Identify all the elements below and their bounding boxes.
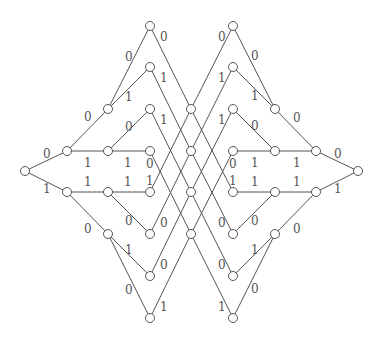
node-d0 <box>146 22 155 31</box>
edge-label: 1 <box>84 156 92 170</box>
node-f6 <box>229 272 238 281</box>
edge-label: 0 <box>218 258 226 272</box>
node-d1 <box>146 63 155 72</box>
edge-e2-f6 <box>191 192 233 276</box>
network-diagram: 0101100101101001101001011010010101101001… <box>0 0 382 342</box>
node-f4 <box>229 188 238 197</box>
edge-label: 1 <box>251 89 259 103</box>
node-e3 <box>187 230 196 239</box>
edge-e3-f7 <box>191 234 233 318</box>
edge-label: 0 <box>160 30 168 44</box>
edge-label: 1 <box>293 175 301 189</box>
node-e0 <box>187 105 196 114</box>
node-d5 <box>146 230 155 239</box>
edge-e1-f1 <box>191 67 233 151</box>
edge-label: 1 <box>218 71 226 85</box>
node-c3 <box>104 230 113 239</box>
node-g2 <box>271 188 280 197</box>
edge-label: 0 <box>125 120 133 134</box>
edge-label: 0 <box>293 111 301 125</box>
edge-label: 0 <box>251 214 259 228</box>
nodes-layer <box>21 22 363 323</box>
node-f2 <box>229 105 238 114</box>
node-c1 <box>104 147 113 156</box>
edge-label: 0 <box>125 283 133 297</box>
edges-layer <box>25 26 358 318</box>
edge-label: 0 <box>251 49 259 63</box>
edge-label: 0 <box>218 30 226 44</box>
node-f0 <box>229 22 238 31</box>
node-a0 <box>21 167 30 176</box>
edge-label: 1 <box>251 243 259 257</box>
edge-label: 0 <box>251 119 259 133</box>
edge-d6-e2 <box>150 192 191 276</box>
edge-label: 1 <box>124 156 132 170</box>
edge-label: 1 <box>160 300 168 314</box>
edge-label: 1 <box>124 175 132 189</box>
node-e2 <box>187 188 196 197</box>
node-f3 <box>229 147 238 156</box>
edge-d0-e0 <box>150 26 191 109</box>
edge-label: 0 <box>293 222 301 236</box>
edge-label: 0 <box>160 216 168 230</box>
edge-label: 1 <box>160 71 168 85</box>
node-f7 <box>229 314 238 323</box>
edge-label: 1 <box>218 300 226 314</box>
node-d4 <box>146 188 155 197</box>
edge-label: 1 <box>84 175 92 189</box>
node-d2 <box>146 105 155 114</box>
node-f1 <box>229 63 238 72</box>
edge-label: 1 <box>251 175 259 189</box>
edge-label: 0 <box>125 50 133 64</box>
node-c2 <box>104 188 113 197</box>
edge-e0-f0 <box>191 26 233 109</box>
edge-label: 1 <box>160 113 168 127</box>
edge-label: 1 <box>125 243 133 257</box>
node-d6 <box>146 272 155 281</box>
edge-label: 1 <box>125 90 133 104</box>
edge-label: 0 <box>125 214 133 228</box>
edge-label: 1 <box>334 182 342 196</box>
edge-label: 0 <box>84 222 92 236</box>
edge-d1-e1 <box>150 67 191 151</box>
edge-label: 1 <box>251 156 259 170</box>
node-h1 <box>312 188 321 197</box>
edge-label: 0 <box>218 216 226 230</box>
node-g0 <box>271 105 280 114</box>
edge-label: 0 <box>251 282 259 296</box>
edge-label: 0 <box>146 157 154 171</box>
node-d3 <box>146 147 155 156</box>
node-b1 <box>63 188 72 197</box>
edge-label: 0 <box>43 147 51 161</box>
node-f5 <box>229 230 238 239</box>
node-b0 <box>63 147 72 156</box>
node-e1 <box>187 147 196 156</box>
node-h0 <box>312 147 321 156</box>
edge-d7-e3 <box>150 234 191 318</box>
node-c0 <box>104 105 113 114</box>
edge-label: 1 <box>229 174 237 188</box>
edge-label: 0 <box>334 147 342 161</box>
edge-label: 0 <box>160 258 168 272</box>
edge-label: 1 <box>146 174 154 188</box>
node-i0 <box>354 167 363 176</box>
node-g3 <box>271 230 280 239</box>
edge-label: 1 <box>43 182 51 196</box>
edge-label: 1 <box>293 156 301 170</box>
edge-label: 0 <box>229 157 237 171</box>
edge-label: 1 <box>218 113 226 127</box>
node-d7 <box>146 314 155 323</box>
edge-label: 0 <box>84 110 92 124</box>
labels-layer: 0101100101101001101001011010010101101001… <box>43 30 342 314</box>
node-g1 <box>271 147 280 156</box>
